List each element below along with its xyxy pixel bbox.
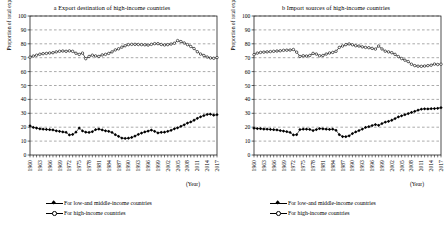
- svg-text:50: 50: [21, 83, 27, 89]
- svg-text:1984: 1984: [330, 160, 336, 171]
- svg-text:1978: 1978: [310, 160, 316, 171]
- svg-text:2011: 2011: [418, 160, 424, 171]
- svg-text:1996: 1996: [369, 160, 375, 171]
- svg-text:1960: 1960: [27, 160, 33, 171]
- svg-text:1984: 1984: [106, 160, 112, 171]
- figure-container: a Export destination of high-income coun…: [0, 0, 448, 237]
- chart-panel-b: b Import sources of high-income countrie…: [224, 0, 448, 237]
- svg-text:100: 100: [242, 13, 251, 19]
- legend-item-high-income: For high-income countries: [46, 209, 152, 219]
- filled-diamond-marker-icon: [270, 199, 287, 208]
- svg-text:1999: 1999: [379, 160, 385, 171]
- svg-text:2017: 2017: [214, 160, 220, 171]
- svg-text:1990: 1990: [349, 160, 355, 171]
- svg-text:20: 20: [245, 124, 251, 130]
- svg-text:2014: 2014: [204, 160, 210, 171]
- svg-text:2005: 2005: [175, 160, 181, 171]
- chart-panel-a: a Export destination of high-income coun…: [0, 0, 224, 237]
- legend-label-low-middle-income: For low-and middle-income countries: [63, 199, 152, 209]
- svg-text:1999: 1999: [155, 160, 161, 171]
- svg-text:1975: 1975: [76, 160, 82, 171]
- panel-a-legend: For low-and middle-income countries For …: [46, 199, 152, 218]
- svg-text:2011: 2011: [194, 160, 200, 171]
- svg-text:2008: 2008: [184, 160, 190, 171]
- svg-text:1960: 1960: [251, 160, 257, 171]
- legend-item-high-income: For high-income countries: [270, 209, 376, 219]
- svg-text:70: 70: [245, 55, 251, 61]
- svg-text:50: 50: [245, 83, 251, 89]
- svg-text:1987: 1987: [116, 160, 122, 171]
- legend-label-low-middle-income: For low-and middle-income countries: [287, 199, 376, 209]
- filled-diamond-marker-icon: [46, 199, 63, 208]
- svg-text:1993: 1993: [359, 160, 365, 171]
- panel-a-x-axis-label: (Year): [186, 181, 200, 188]
- svg-text:0: 0: [248, 152, 251, 158]
- svg-text:90: 90: [245, 27, 251, 33]
- svg-text:1996: 1996: [145, 160, 151, 171]
- legend-item-low-middle-income: For low-and middle-income countries: [46, 199, 152, 209]
- svg-text:2002: 2002: [389, 160, 395, 171]
- svg-text:1963: 1963: [261, 160, 267, 171]
- svg-text:1966: 1966: [271, 160, 277, 171]
- svg-text:10: 10: [245, 138, 251, 144]
- svg-text:2005: 2005: [399, 160, 405, 171]
- svg-text:100: 100: [18, 13, 27, 19]
- svg-text:90: 90: [21, 27, 27, 33]
- svg-text:1969: 1969: [57, 160, 63, 171]
- svg-text:2014: 2014: [428, 160, 434, 171]
- panel-b-x-axis-label: (Year): [410, 181, 424, 188]
- svg-text:1978: 1978: [86, 160, 92, 171]
- svg-text:0: 0: [24, 152, 27, 158]
- legend-label-high-income: For high-income countries: [287, 209, 350, 219]
- open-circle-marker-icon: [270, 209, 287, 218]
- svg-text:1972: 1972: [66, 160, 72, 171]
- svg-text:1993: 1993: [135, 160, 141, 171]
- svg-text:20: 20: [21, 124, 27, 130]
- svg-text:1981: 1981: [96, 160, 102, 171]
- svg-text:60: 60: [245, 69, 251, 75]
- svg-text:40: 40: [21, 96, 27, 102]
- svg-text:10: 10: [21, 138, 27, 144]
- svg-text:1963: 1963: [37, 160, 43, 171]
- open-circle-marker-icon: [46, 209, 63, 218]
- svg-text:80: 80: [245, 41, 251, 47]
- svg-text:2002: 2002: [165, 160, 171, 171]
- svg-text:1966: 1966: [47, 160, 53, 171]
- svg-text:30: 30: [245, 110, 251, 116]
- svg-text:1975: 1975: [300, 160, 306, 171]
- svg-text:1981: 1981: [320, 160, 326, 171]
- svg-text:30: 30: [21, 110, 27, 116]
- panel-b-legend: For low-and middle-income countries For …: [270, 199, 376, 218]
- svg-text:2017: 2017: [438, 160, 444, 171]
- legend-item-low-middle-income: For low-and middle-income countries: [270, 199, 376, 209]
- svg-text:1972: 1972: [290, 160, 296, 171]
- legend-label-high-income: For high-income countries: [63, 209, 126, 219]
- svg-text:60: 60: [21, 69, 27, 75]
- svg-text:40: 40: [245, 96, 251, 102]
- svg-text:70: 70: [21, 55, 27, 61]
- svg-text:2008: 2008: [408, 160, 414, 171]
- svg-text:80: 80: [21, 41, 27, 47]
- svg-text:1969: 1969: [281, 160, 287, 171]
- svg-text:1987: 1987: [340, 160, 346, 171]
- svg-text:1990: 1990: [125, 160, 131, 171]
